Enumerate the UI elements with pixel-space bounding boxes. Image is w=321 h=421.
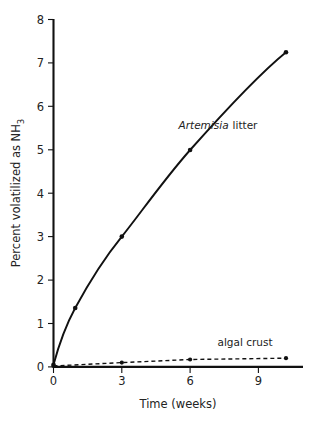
artemisia-rest-text: litter: [233, 119, 259, 131]
algal-crust-marker-w10: [284, 356, 288, 360]
x-tick-label-9: 9: [255, 374, 262, 388]
artemisia-marker-w6: [188, 148, 193, 153]
artemisia-genus-text: Artemisia: [178, 119, 229, 131]
algal-crust-marker-w6: [188, 357, 192, 361]
y-tick-label-2: 2: [37, 273, 44, 287]
x-tick-label-3: 3: [118, 374, 125, 388]
algal-crust-label: algal crust: [217, 336, 272, 348]
x-tick-label-6: 6: [186, 374, 193, 388]
y-tick-label-1: 1: [37, 317, 44, 331]
y-tick-label-4: 4: [37, 187, 44, 201]
y-tick-label-8: 8: [37, 13, 44, 27]
artemisia-litter-label: Artemisialitter: [178, 119, 259, 131]
x-axis-title: Time (weeks): [139, 397, 217, 411]
artemisia-marker-w0: [51, 363, 56, 368]
artemisia-marker-w1: [73, 306, 78, 311]
y-tick-label-3: 3: [37, 230, 44, 244]
y-axis-title-main: Percent volatilized as NH: [9, 124, 23, 267]
y-tick-label-7: 7: [37, 56, 44, 70]
y-axis-title-subscript: 3: [16, 119, 26, 124]
y-tick-label-0: 0: [37, 360, 44, 374]
y-tick-label-6: 6: [37, 100, 44, 114]
y-tick-label-5: 5: [37, 143, 44, 157]
algal-crust-marker-w3: [120, 361, 124, 365]
artemisia-marker-w10: [284, 50, 289, 55]
artemisia-marker-w3: [120, 234, 125, 239]
x-tick-label-0: 0: [50, 374, 57, 388]
ammonia-volatilization-chart: 8 7 6 5 4 3 2 1 0 Percent volatilized as…: [0, 0, 321, 421]
